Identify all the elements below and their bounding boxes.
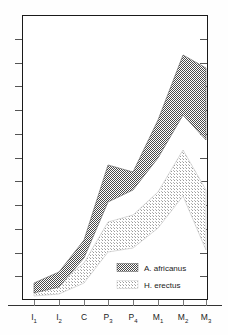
x-axis-labels: I1I2CP3P4M1M2M3 xyxy=(31,312,212,324)
x-tick-label-M1: M1 xyxy=(153,312,164,324)
x-tick-label-P3: P3 xyxy=(103,312,113,324)
legend-label-a-africanus: A. africanus xyxy=(144,264,186,273)
x-tick-label-I1: I1 xyxy=(31,312,37,324)
x-tick-label-P4: P4 xyxy=(128,312,138,324)
legend-label-h-erectus: H. erectus xyxy=(144,281,180,290)
legend-swatch-a-africanus xyxy=(117,264,138,272)
dental-dimensions-chart: A. africanus H. erectus I1I2CP3P4M1M2M3 xyxy=(0,0,228,335)
y-axis-ticks-left xyxy=(15,40,22,277)
x-tick-label-C: C xyxy=(81,312,87,322)
figure-container: A. africanus H. erectus I1I2CP3P4M1M2M3 xyxy=(0,0,228,335)
x-tick-label-M2: M2 xyxy=(178,312,189,324)
x-tick-label-M3: M3 xyxy=(201,312,212,324)
x-tick-label-I2: I2 xyxy=(56,312,62,324)
legend-swatch-h-erectus xyxy=(117,281,138,289)
